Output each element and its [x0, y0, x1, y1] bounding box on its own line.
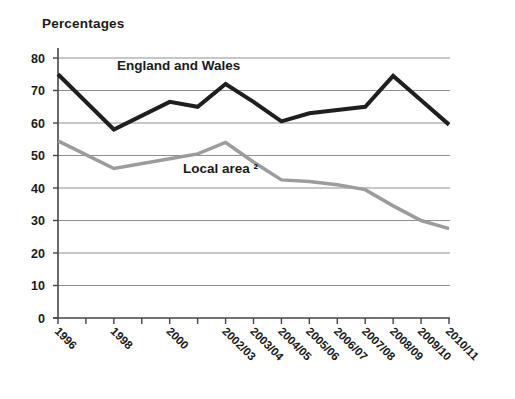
x-axis-label: 1996: [53, 325, 80, 352]
x-axis-label: 2000: [164, 325, 191, 352]
plot-area: 010203040506070801996199820002002/032003…: [0, 0, 515, 399]
x-axis-label: 1998: [108, 325, 135, 352]
series-label-local-area: Local area ²: [183, 161, 258, 176]
line-chart: Percentages 0102030405060708019961998200…: [0, 0, 515, 399]
y-axis-label: 20: [31, 247, 45, 261]
y-axis-label: 10: [31, 279, 45, 293]
y-axis-label: 40: [31, 182, 45, 196]
series-label-england-and-wales: England and Wales: [117, 58, 240, 73]
y-axis-label: 80: [31, 52, 45, 66]
y-axis-label: 30: [31, 214, 45, 228]
y-axis-label: 70: [31, 84, 45, 98]
y-axis-label: 50: [31, 149, 45, 163]
series-line-local-area: [58, 141, 449, 229]
series-line-england-and-wales: [58, 74, 449, 129]
y-axis-label: 60: [31, 117, 45, 131]
y-axis-label: 0: [38, 312, 45, 326]
